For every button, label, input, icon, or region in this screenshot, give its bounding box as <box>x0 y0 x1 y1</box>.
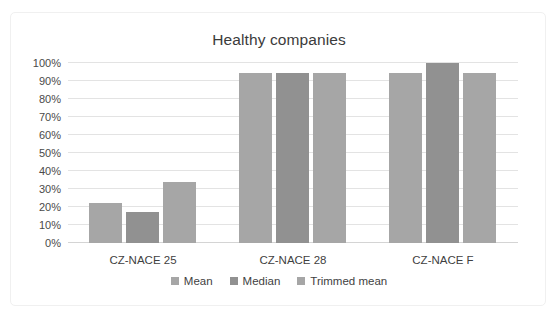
bar[interactable] <box>426 63 459 243</box>
legend-item[interactable]: Mean <box>171 275 213 287</box>
bar-group: CZ-NACE 28 <box>218 63 368 243</box>
legend-swatch-icon <box>171 277 179 285</box>
bar[interactable] <box>126 212 159 243</box>
y-axis-tick-label: 60% <box>39 129 61 141</box>
chart-title: Healthy companies <box>11 31 547 49</box>
bars <box>218 63 368 243</box>
bars <box>68 63 218 243</box>
y-axis-tick-label: 80% <box>39 93 61 105</box>
bar[interactable] <box>463 73 496 243</box>
y-axis-tick-label: 0% <box>45 237 61 249</box>
y-axis-tick-label: 50% <box>39 147 61 159</box>
bar[interactable] <box>276 73 309 243</box>
x-axis-category-label: CZ-NACE F <box>368 254 518 266</box>
legend-item[interactable]: Trimmed mean <box>297 275 387 287</box>
y-axis-tick-label: 10% <box>39 219 61 231</box>
x-axis-category-label: CZ-NACE 25 <box>68 254 218 266</box>
y-axis-tick-label: 90% <box>39 75 61 87</box>
legend-label: Median <box>243 275 281 287</box>
legend-label: Trimmed mean <box>310 275 387 287</box>
bar[interactable] <box>239 73 272 243</box>
bar-group: CZ-NACE F <box>368 63 518 243</box>
y-axis-tick-label: 70% <box>39 111 61 123</box>
y-axis-tick-label: 100% <box>33 57 61 69</box>
plot-area: 100%90%80%70%60%50%40%30%20%10%0% CZ-NAC… <box>68 63 518 243</box>
bar[interactable] <box>163 182 196 243</box>
bars <box>368 63 518 243</box>
chart-container: Healthy companies 100%90%80%70%60%50%40%… <box>10 12 546 306</box>
chart-legend: MeanMedianTrimmed mean <box>11 275 547 287</box>
bar[interactable] <box>89 203 122 243</box>
legend-swatch-icon <box>230 277 238 285</box>
bar[interactable] <box>389 73 422 243</box>
legend-item[interactable]: Median <box>230 275 281 287</box>
y-axis-tick-label: 20% <box>39 201 61 213</box>
y-axis-tick-label: 30% <box>39 183 61 195</box>
x-axis-category-label: CZ-NACE 28 <box>218 254 368 266</box>
bar-group: CZ-NACE 25 <box>68 63 218 243</box>
legend-label: Mean <box>184 275 213 287</box>
legend-swatch-icon <box>297 277 305 285</box>
bar[interactable] <box>313 73 346 243</box>
y-axis-tick-label: 40% <box>39 165 61 177</box>
